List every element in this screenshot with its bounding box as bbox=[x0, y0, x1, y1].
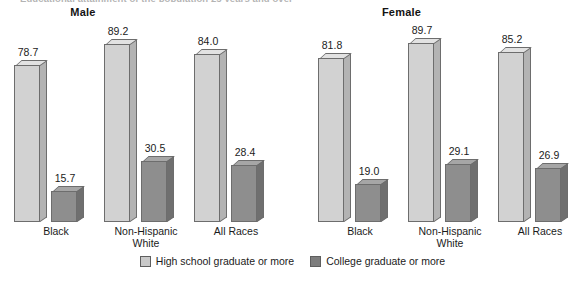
panel-male: Male 78.7 15.7 Black bbox=[0, 0, 292, 250]
bar-side-face bbox=[381, 179, 388, 222]
bar-side-face bbox=[434, 38, 441, 222]
bar-high-school[interactable]: 78.7 bbox=[14, 65, 40, 222]
legend-item-high-school[interactable]: High school graduate or more bbox=[140, 255, 294, 267]
bar-side-face bbox=[220, 49, 227, 222]
category-label: Black bbox=[10, 225, 102, 237]
category-label-line1: All Races bbox=[190, 225, 282, 237]
bar-side-face bbox=[471, 159, 478, 222]
bar-front-face bbox=[104, 44, 130, 222]
bar-front-face bbox=[231, 165, 257, 222]
bar-front-face bbox=[355, 184, 381, 222]
legend-swatch-icon bbox=[140, 256, 151, 267]
legend-swatch-icon bbox=[310, 256, 321, 267]
bar-group: 89.2 30.5 Non-Hispanic White bbox=[100, 0, 192, 222]
bar-college[interactable]: 29.1 bbox=[445, 164, 471, 222]
bar-group: 81.8 19.0 Black bbox=[314, 0, 406, 222]
bar-college[interactable]: 30.5 bbox=[141, 161, 167, 222]
bar-side-face bbox=[167, 156, 174, 222]
bar-group: 84.0 28.4 All Races bbox=[190, 0, 282, 222]
bar-front-face bbox=[318, 58, 344, 222]
bar-college[interactable]: 26.9 bbox=[535, 168, 561, 222]
bar-high-school[interactable]: 89.2 bbox=[104, 44, 130, 222]
bar-high-school[interactable]: 84.0 bbox=[194, 54, 220, 222]
bar-front-face bbox=[194, 54, 220, 222]
legend: High school graduate or more College gra… bbox=[0, 255, 585, 267]
bar-value-label: 78.7 bbox=[7, 46, 49, 58]
category-label-line2: White bbox=[404, 237, 496, 249]
bar-high-school[interactable]: 89.7 bbox=[408, 43, 434, 222]
bar-side-face bbox=[561, 163, 568, 222]
bar-side-face bbox=[40, 60, 47, 222]
bar-side-face bbox=[257, 160, 264, 222]
category-label-line2: White bbox=[100, 237, 192, 249]
bar-value-label: 84.0 bbox=[187, 35, 229, 47]
bar-value-label: 85.2 bbox=[491, 33, 533, 45]
bar-value-label: 29.1 bbox=[438, 145, 480, 157]
bar-group: 89.7 29.1 Non-Hispanic White bbox=[404, 0, 496, 222]
bar-front-face bbox=[408, 43, 434, 222]
bar-college[interactable]: 15.7 bbox=[51, 191, 77, 222]
bar-value-label: 30.5 bbox=[134, 142, 176, 154]
bar-front-face bbox=[51, 191, 77, 222]
bar-value-label: 28.4 bbox=[224, 146, 266, 158]
bar-front-face bbox=[445, 164, 471, 222]
bar-value-label: 19.0 bbox=[348, 165, 390, 177]
bar-side-face bbox=[344, 54, 351, 222]
chart-root: Educational attainment of the population… bbox=[0, 0, 585, 290]
category-label: All Races bbox=[494, 225, 585, 237]
bar-side-face bbox=[524, 47, 531, 222]
bar-value-label: 89.7 bbox=[401, 24, 443, 36]
bar-college[interactable]: 19.0 bbox=[355, 184, 381, 222]
bar-front-face bbox=[535, 168, 561, 222]
category-label-line1: All Races bbox=[494, 225, 585, 237]
bar-college[interactable]: 28.4 bbox=[231, 165, 257, 222]
category-label: All Races bbox=[190, 225, 282, 237]
bar-front-face bbox=[141, 161, 167, 222]
panel-female: Female 81.8 19.0 Black bbox=[292, 0, 585, 250]
bar-group: 78.7 15.7 Black bbox=[10, 0, 102, 222]
legend-label: College graduate or more bbox=[326, 255, 445, 267]
bar-side-face bbox=[77, 186, 84, 222]
legend-item-college[interactable]: College graduate or more bbox=[310, 255, 445, 267]
bar-side-face bbox=[130, 39, 137, 222]
category-label: Black bbox=[314, 225, 406, 237]
bar-value-label: 89.2 bbox=[97, 25, 139, 37]
bar-high-school[interactable]: 81.8 bbox=[318, 58, 344, 222]
bar-value-label: 26.9 bbox=[528, 149, 570, 161]
plot-area-male: 78.7 15.7 Black 89.2 bbox=[0, 0, 292, 222]
plot-area-female: 81.8 19.0 Black 89.7 bbox=[292, 0, 585, 222]
category-label-line1: Black bbox=[10, 225, 102, 237]
legend-label: High school graduate or more bbox=[156, 255, 294, 267]
category-label: Non-Hispanic White bbox=[404, 225, 496, 249]
bar-value-label: 15.7 bbox=[44, 172, 86, 184]
category-label-line1: Non-Hispanic bbox=[100, 225, 192, 237]
category-label-line1: Black bbox=[314, 225, 406, 237]
bar-high-school[interactable]: 85.2 bbox=[498, 52, 524, 222]
bar-group: 85.2 26.9 All Races bbox=[494, 0, 585, 222]
bar-value-label: 81.8 bbox=[311, 39, 353, 51]
category-label-line1: Non-Hispanic bbox=[404, 225, 496, 237]
bar-front-face bbox=[14, 65, 40, 222]
category-label: Non-Hispanic White bbox=[100, 225, 192, 249]
bar-front-face bbox=[498, 52, 524, 222]
